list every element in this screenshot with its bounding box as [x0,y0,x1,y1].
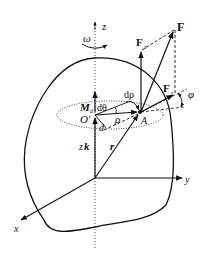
omega-label: ω [83,32,91,44]
r-label: r [110,140,115,152]
diagram-canvas: z ω y x F F z F r φ dρ dθ M d O' A d [0,0,206,262]
zk-z-label: z [78,141,83,152]
force-r-subscript: r [171,90,174,96]
rho-label: ρ [114,113,120,125]
zk-k-label: k [84,140,90,152]
d-rho-label: dρ [124,89,134,100]
o-prime-label: O' [80,113,91,125]
moment-subscript: d [90,108,94,114]
point-a-label: A [140,115,148,126]
force-r-label: F [163,82,170,94]
d-label: d [99,122,105,133]
dash-horizontal [141,107,184,112]
force-label: F [177,20,184,34]
x-axis-label: x [13,223,19,234]
phi-arc [178,93,182,107]
force-z-label: F [136,36,143,48]
d-theta-label: dθ [97,102,107,113]
phi-label: φ [188,88,194,100]
omega-arrow [82,44,107,48]
z-axis-label: z [102,21,107,32]
y-axis-label: y [184,174,190,185]
